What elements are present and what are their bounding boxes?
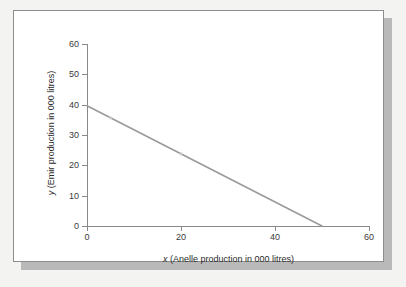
plot-area: 0 10 20 30 40 50 60 0 20 40 60 x (Anelle… xyxy=(14,11,383,261)
x-axis-title: x (Anelle production in 000 litres) xyxy=(87,254,370,264)
x-tick-0 xyxy=(87,226,88,231)
y-tick-50 xyxy=(82,74,87,75)
y-tick-label-50: 50 xyxy=(57,69,79,79)
y-tick-40 xyxy=(82,105,87,106)
y-tick-label-40: 40 xyxy=(57,100,79,110)
ppf-line xyxy=(87,106,322,226)
y-tick-label-30: 30 xyxy=(57,130,79,140)
data-marker-1 xyxy=(109,116,112,119)
x-axis-title-text: (Anelle production in 000 litres) xyxy=(167,254,294,264)
y-tick-label-20: 20 xyxy=(57,160,79,170)
y-axis-title: y (Emir production in 000 litres) xyxy=(46,38,56,228)
y-tick-label-0: 0 xyxy=(57,221,79,231)
x-tick-label-0: 0 xyxy=(75,232,99,242)
x-tick-20 xyxy=(181,226,182,231)
chart-figure-card: 0 10 20 30 40 50 60 0 20 40 60 x (Anelle… xyxy=(13,10,384,262)
y-axis-title-text: (Emir production in 000 litres) xyxy=(46,71,56,191)
y-tick-20 xyxy=(82,165,87,166)
x-tick-label-20: 20 xyxy=(169,232,193,242)
x-tick-label-60: 60 xyxy=(357,232,381,242)
y-tick-30 xyxy=(82,135,87,136)
x-tick-40 xyxy=(275,226,276,231)
x-tick-label-40: 40 xyxy=(263,232,287,242)
y-tick-10 xyxy=(82,196,87,197)
y-axis-line xyxy=(87,44,88,227)
y-tick-label-10: 10 xyxy=(57,191,79,201)
x-tick-60 xyxy=(369,226,370,231)
data-marker-2 xyxy=(179,152,182,155)
y-tick-60 xyxy=(82,44,87,45)
y-axis-variable: y xyxy=(46,191,56,196)
series-line-svg xyxy=(14,11,406,287)
x-axis-line xyxy=(87,226,370,227)
y-tick-label-60: 60 xyxy=(57,39,79,49)
